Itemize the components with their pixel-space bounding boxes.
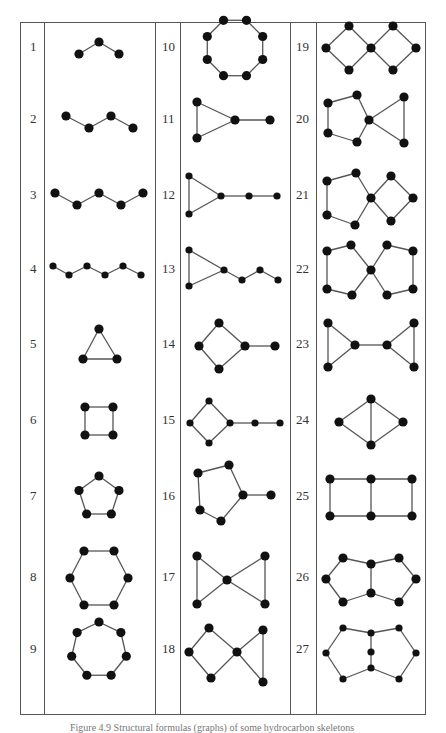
graph-number-label: 7: [30, 488, 37, 504]
graph-number-label: 1: [30, 39, 37, 55]
graph-edge: [198, 465, 229, 473]
graph-edge: [197, 102, 235, 120]
graph-node: [108, 402, 117, 411]
graph-edge: [352, 270, 371, 295]
graph-node: [352, 137, 361, 146]
molecular-graph-9: [44, 610, 154, 690]
graph-node: [323, 362, 332, 371]
graph-edge: [219, 323, 245, 346]
graph-edge: [326, 653, 343, 679]
graph-node: [321, 574, 330, 583]
graph-node: [242, 71, 251, 80]
graph-node: [94, 324, 103, 333]
graph-node: [192, 599, 201, 608]
graph-number-label: 23: [296, 336, 309, 352]
graph-node: [399, 92, 408, 101]
graph-node: [366, 559, 375, 568]
graph-edge: [227, 556, 265, 580]
graph-edge: [371, 422, 403, 445]
graph-node: [395, 675, 402, 682]
graph-edge: [326, 628, 343, 653]
graph-edge: [355, 198, 371, 225]
graph-node: [114, 486, 123, 495]
graph-node: [122, 652, 131, 661]
graph-node: [258, 32, 267, 41]
graph-node: [194, 341, 203, 350]
graph-node: [388, 65, 397, 74]
graph-edge: [371, 48, 393, 70]
graph-node: [323, 318, 332, 327]
column-divider: [155, 23, 156, 714]
molecular-graph-13: [180, 230, 290, 310]
graph-edge: [219, 346, 245, 369]
graph-edge: [209, 423, 230, 443]
graph-edge: [197, 580, 227, 604]
graph-number-label: 15: [162, 412, 175, 428]
graph-number-label: 6: [30, 412, 37, 428]
graph-edge: [189, 628, 209, 652]
graph-node: [50, 188, 59, 197]
graph-node: [79, 600, 88, 609]
graph-node: [94, 188, 103, 197]
graph-node: [119, 262, 126, 269]
graph-node: [226, 419, 233, 426]
graph-node: [395, 624, 402, 631]
graph-node: [273, 192, 280, 199]
graph-node: [224, 460, 233, 469]
graph-node: [65, 573, 74, 582]
graph-edge: [349, 26, 371, 48]
graph-edge: [83, 329, 99, 359]
graph-node: [106, 111, 115, 120]
graph-number-label: 14: [162, 336, 175, 352]
graph-node: [386, 216, 395, 225]
graph-edge: [209, 401, 230, 423]
molecular-graph-26: [316, 538, 426, 618]
graph-number-label: 27: [296, 641, 309, 657]
graph-edge: [189, 270, 224, 286]
graph-node: [185, 210, 192, 217]
graph-node: [220, 266, 227, 273]
graph-node: [412, 649, 419, 656]
graph-number-label: 2: [30, 111, 37, 127]
graph-node: [258, 677, 267, 686]
graph-node: [80, 402, 89, 411]
graph-edge: [209, 628, 237, 652]
molecular-graph-3: [44, 156, 154, 236]
graph-node: [394, 597, 403, 606]
graph-number-label: 24: [296, 412, 309, 428]
graph-node: [411, 574, 420, 583]
graph-node: [258, 55, 267, 64]
graph-number-label: 19: [296, 39, 309, 55]
graph-node: [334, 417, 343, 426]
molecular-graph-5: [44, 305, 154, 385]
graph-node: [251, 419, 258, 426]
graph-node: [238, 490, 247, 499]
graph-number-label: 22: [296, 261, 309, 277]
figure-caption: Figure 4.9 Structural formulas (graphs) …: [70, 722, 354, 733]
graph-node: [367, 664, 374, 671]
graph-edge: [189, 176, 221, 196]
molecular-graph-10: [180, 8, 290, 88]
graph-edge: [229, 465, 243, 495]
graph-node: [350, 340, 359, 349]
graph-node: [366, 588, 375, 597]
graph-number-label: 13: [162, 261, 175, 277]
graph-node: [108, 430, 117, 439]
graph-node: [101, 271, 108, 278]
graph-edge: [237, 630, 263, 652]
graph-node: [109, 546, 118, 555]
graph-node: [411, 43, 420, 52]
graph-number-label: 9: [30, 641, 37, 657]
molecular-graph-22: [316, 230, 426, 310]
graph-node: [203, 55, 212, 64]
graph-node: [388, 21, 397, 30]
graph-node: [74, 49, 83, 58]
graph-edge: [197, 556, 227, 580]
graph-node: [107, 671, 116, 680]
graph-number-label: 17: [162, 569, 175, 585]
graph-node: [276, 419, 283, 426]
graph-node: [322, 649, 329, 656]
graph-edge: [399, 653, 416, 679]
graph-node: [258, 625, 267, 634]
graph-node: [73, 628, 82, 637]
